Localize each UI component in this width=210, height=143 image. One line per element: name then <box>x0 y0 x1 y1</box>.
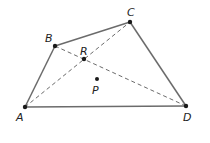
diagonal-ac <box>25 22 130 107</box>
label-c: C <box>127 6 135 19</box>
point-b <box>53 44 57 48</box>
label-a: A <box>15 111 24 124</box>
point-p <box>95 77 99 81</box>
point-a <box>23 105 27 109</box>
label-r: R <box>80 45 88 58</box>
edge-bc <box>55 22 130 46</box>
edge-ab <box>25 46 55 107</box>
label-d: D <box>183 111 191 124</box>
point-c <box>128 20 132 24</box>
quadrilateral-diagram: A B C D R P <box>0 0 210 143</box>
edge-da <box>25 106 186 107</box>
label-b: B <box>45 32 53 45</box>
point-d <box>184 104 188 108</box>
label-p: P <box>92 84 99 97</box>
